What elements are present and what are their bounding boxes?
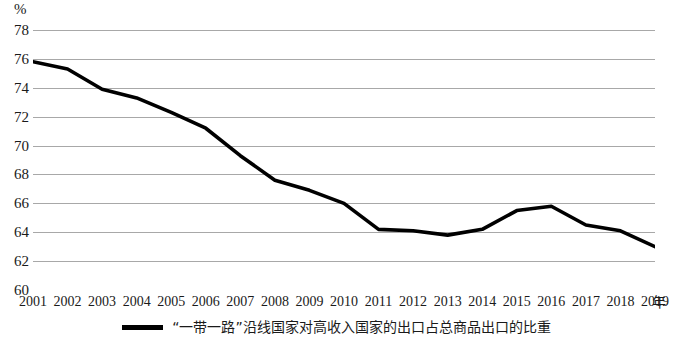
chart-legend: “一带一路”沿线国家对高收入国家的出口占总商品出口的比重 (0, 318, 673, 336)
y-axis-tick-label: 64 (1, 225, 29, 240)
legend-entry-label: “一带一路”沿线国家对高收入国家的出口占总商品出口的比重 (172, 318, 551, 336)
x-axis-tick-label: 2006 (192, 293, 220, 311)
x-axis-tick-label: 2010 (330, 293, 358, 311)
x-axis-tick-label: 2009 (295, 293, 323, 311)
x-axis-tick-label: 2003 (88, 293, 116, 311)
x-axis-tick-label: 2017 (572, 293, 600, 311)
x-axis-tick-label: 2008 (261, 293, 289, 311)
x-axis-tick-label: 2004 (123, 293, 151, 311)
series-line-path (33, 62, 655, 247)
y-axis-tick-label: 70 (1, 138, 29, 153)
x-axis-tick-label: 2002 (54, 293, 82, 311)
x-axis-tick-label: 2015 (503, 293, 531, 311)
series-layer (33, 30, 655, 290)
legend-line-marker (122, 325, 163, 330)
y-axis-tick-label: 78 (1, 23, 29, 38)
x-axis-tick-label: 2005 (157, 293, 185, 311)
x-axis-tick-label: 2007 (226, 293, 254, 311)
x-axis-tick-label: 2013 (434, 293, 462, 311)
x-axis-tick-label: 2011 (365, 293, 392, 311)
y-axis-tick-label: 76 (1, 51, 29, 66)
x-axis-unit-label: 年 (652, 293, 666, 311)
y-axis-tick-labels: 78767472706866646260 (0, 30, 29, 290)
y-axis-tick-label: 62 (1, 254, 29, 269)
y-axis-tick-label: 74 (1, 80, 29, 95)
x-axis-tick-labels: 2001200220032004200520062007200820092010… (33, 293, 655, 313)
y-axis-tick-label: 72 (1, 109, 29, 124)
x-axis-tick-label: 2014 (468, 293, 496, 311)
y-axis-unit-label: % (14, 2, 27, 17)
line-chart-figure: % 78767472706866646260 20012002200320042… (0, 0, 673, 341)
plot-area (33, 30, 655, 290)
x-axis-tick-label: 2012 (399, 293, 427, 311)
x-axis-tick-label: 2016 (537, 293, 565, 311)
y-axis-tick-label: 66 (1, 196, 29, 211)
x-axis-tick-label: 2001 (19, 293, 47, 311)
x-axis-tick-label: 2018 (606, 293, 634, 311)
y-axis-tick-label: 68 (1, 167, 29, 182)
